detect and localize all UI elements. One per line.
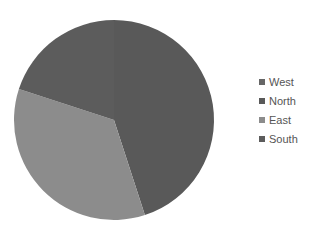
- legend-item-north: North: [259, 91, 298, 110]
- legend-item-east: East: [259, 110, 298, 129]
- chart-legend: West North East South: [259, 72, 298, 148]
- legend-label-west: West: [269, 76, 294, 88]
- legend-item-west: West: [259, 72, 298, 91]
- legend-label-south: South: [269, 133, 298, 145]
- legend-label-east: East: [269, 114, 291, 126]
- legend-swatch-north: [259, 98, 265, 104]
- legend-swatch-east: [259, 117, 265, 123]
- pie-chart: [0, 0, 230, 233]
- legend-swatch-west: [259, 79, 265, 85]
- legend-label-north: North: [269, 95, 296, 107]
- legend-item-south: South: [259, 129, 298, 148]
- legend-swatch-south: [259, 136, 265, 142]
